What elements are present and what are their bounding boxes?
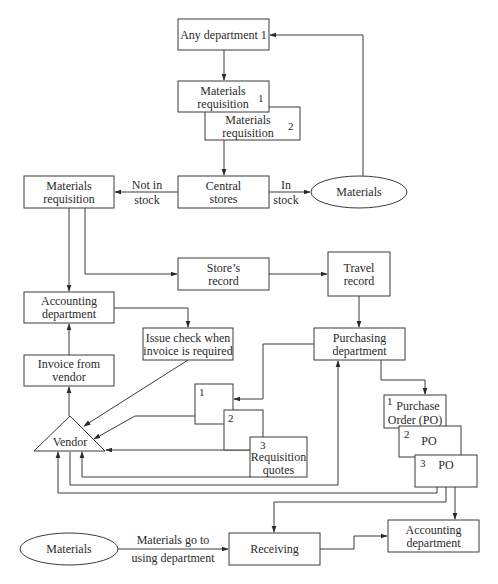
node-purchase-order-2: 2 PO	[399, 426, 461, 457]
edge-label-in-stock: In stock	[273, 178, 298, 207]
node-materials-requisition-left: Materials requisition	[24, 176, 114, 208]
svg-text:Not in: Not in	[132, 178, 162, 192]
svg-text:PO: PO	[421, 434, 437, 448]
svg-text:Materials: Materials	[200, 84, 246, 98]
svg-text:In: In	[281, 178, 291, 192]
node-receiving: Receiving	[229, 533, 320, 565]
svg-text:Invoice from: Invoice from	[38, 357, 101, 371]
svg-text:Accounting: Accounting	[406, 523, 462, 537]
svg-text:Issue check when: Issue check when	[146, 331, 231, 345]
edge-purchasing-to-reqquote	[234, 344, 314, 399]
svg-text:Receiving: Receiving	[250, 542, 299, 556]
node-invoice-from-vendor: Invoice from vendor	[24, 355, 114, 386]
edge-reqquote1-to-vendor	[94, 416, 195, 439]
svg-text:requisition: requisition	[197, 97, 248, 111]
svg-text:PO: PO	[438, 458, 454, 472]
node-any-department: Any department 1	[178, 19, 269, 50]
svg-text:3: 3	[420, 457, 426, 469]
svg-text:record: record	[208, 274, 239, 288]
svg-text:1: 1	[387, 395, 393, 407]
flowchart-canvas: Not in stock In stock Materials go to us…	[0, 0, 498, 584]
svg-text:2: 2	[228, 412, 234, 424]
svg-text:department: department	[407, 536, 462, 550]
edge-materials-to-anydept	[270, 35, 363, 176]
edge-po-to-vendor	[58, 452, 437, 493]
node-vendor: Vendor	[34, 416, 105, 451]
svg-text:record: record	[344, 274, 375, 288]
svg-text:Purchase: Purchase	[396, 399, 439, 413]
svg-text:department: department	[333, 344, 388, 358]
node-purchase-order-1: 1 Purchase Order (PO)	[384, 395, 446, 428]
svg-text:Accounting: Accounting	[41, 294, 97, 308]
svg-text:Any department 1: Any department 1	[180, 28, 267, 42]
svg-text:Store’s: Store’s	[207, 261, 241, 275]
svg-text:stock: stock	[134, 193, 159, 207]
svg-text:stock: stock	[273, 193, 298, 207]
edge-matreq-to-storesrecord	[85, 208, 177, 274]
node-materials-top: Materials	[311, 176, 407, 208]
node-stores-record: Store’s record	[178, 258, 269, 290]
svg-text:Materials: Materials	[225, 113, 271, 127]
node-accounting-department-left: Accounting department	[24, 292, 114, 323]
edge-receiving-to-accounting	[320, 536, 387, 549]
svg-text:vendor: vendor	[52, 370, 85, 384]
svg-text:Travel: Travel	[344, 261, 376, 275]
edge-label-not-in-stock: Not in stock	[132, 178, 162, 207]
svg-text:Vendor: Vendor	[53, 435, 88, 449]
svg-text:Materials: Materials	[46, 542, 92, 556]
svg-text:Central: Central	[206, 179, 242, 193]
svg-text:department: department	[42, 307, 97, 321]
svg-text:Materials go to: Materials go to	[137, 533, 210, 547]
svg-text:using department: using department	[132, 551, 216, 565]
node-accounting-department-bottom: Accounting department	[388, 520, 479, 552]
svg-text:2: 2	[404, 428, 410, 440]
svg-text:2: 2	[288, 120, 294, 132]
svg-text:Purchasing: Purchasing	[333, 331, 386, 345]
edge-accounting-to-issuecheck	[114, 308, 188, 327]
node-purchase-order-3: 3 PO	[415, 455, 477, 487]
svg-text:Requisition: Requisition	[251, 450, 306, 464]
node-issue-check: Issue check when invoice is required	[143, 328, 233, 360]
svg-text:invoice is required: invoice is required	[143, 344, 232, 358]
node-materials-requisition-1: Materials requisition 1	[178, 81, 269, 112]
node-materials-bottom: Materials	[20, 533, 118, 565]
svg-text:Order (PO): Order (PO)	[388, 413, 442, 427]
svg-text:requisition: requisition	[222, 126, 273, 140]
svg-text:requisition: requisition	[43, 192, 94, 206]
svg-text:Materials: Materials	[336, 185, 382, 199]
svg-text:1: 1	[199, 386, 205, 398]
node-purchasing-department: Purchasing department	[314, 328, 405, 360]
node-central-stores: Central stores	[178, 176, 269, 208]
node-requisition-quote-3: 3 Requisition quotes	[250, 437, 307, 477]
edge-purchasing-to-po	[381, 360, 425, 394]
node-travel-record: Travel record	[328, 252, 390, 296]
svg-text:quotes: quotes	[263, 463, 295, 477]
svg-text:1: 1	[258, 92, 264, 104]
svg-text:stores: stores	[210, 192, 238, 206]
svg-text:Materials: Materials	[46, 179, 92, 193]
edge-reqquote3-to-vendor	[82, 452, 250, 477]
